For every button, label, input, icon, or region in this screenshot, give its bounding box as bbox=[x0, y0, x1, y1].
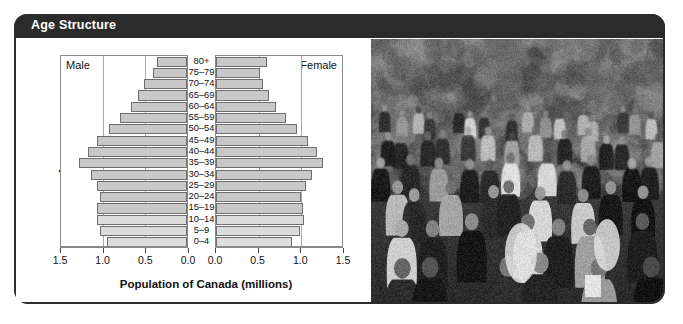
bar-male bbox=[131, 102, 187, 112]
x-axis-tick bbox=[300, 248, 301, 253]
bar-male bbox=[100, 226, 187, 236]
bar-female bbox=[216, 215, 304, 225]
x-axis-tick-label-female: 1.5 bbox=[328, 254, 358, 266]
photo-canvas bbox=[371, 39, 663, 302]
age-group-label: 55–59 bbox=[188, 112, 215, 121]
age-group-label: 25–29 bbox=[188, 180, 215, 189]
bar-male bbox=[157, 57, 187, 67]
bar-male bbox=[88, 147, 187, 157]
x-axis-tick bbox=[60, 248, 61, 253]
bar-male bbox=[100, 192, 187, 202]
bar-female bbox=[216, 90, 269, 100]
x-axis-line bbox=[60, 247, 188, 248]
x-axis-tick-label-female: 1.0 bbox=[285, 254, 315, 266]
bar-male bbox=[144, 79, 187, 89]
bar-female bbox=[216, 237, 292, 247]
figure-root: Age Structure Age Male Female 80+75–7970… bbox=[0, 0, 683, 324]
bar-male bbox=[97, 203, 187, 213]
age-group-label: 70–74 bbox=[188, 78, 215, 87]
bar-female bbox=[216, 192, 301, 202]
x-axis-tick bbox=[188, 248, 189, 253]
bar-male bbox=[97, 215, 187, 225]
x-axis-tick bbox=[343, 248, 344, 253]
bar-female bbox=[216, 57, 267, 67]
bar-male bbox=[97, 136, 187, 146]
legend-label-male: Male bbox=[66, 59, 90, 71]
age-group-label: 30–34 bbox=[188, 169, 215, 178]
x-axis-title: Population of Canada (millions) bbox=[46, 278, 366, 290]
age-group-label: 50–54 bbox=[188, 123, 215, 132]
x-axis-tick bbox=[103, 248, 104, 253]
bar-male bbox=[97, 181, 187, 191]
x-axis-tick bbox=[258, 248, 259, 253]
bar-female bbox=[216, 226, 300, 236]
age-group-label: 5–9 bbox=[188, 225, 215, 234]
male-plot-area: Male bbox=[60, 55, 188, 247]
bar-male bbox=[120, 113, 187, 123]
bar-female bbox=[216, 79, 263, 89]
age-group-label: 40–44 bbox=[188, 146, 215, 155]
age-group-label: 35–39 bbox=[188, 157, 215, 166]
age-group-label: 15–19 bbox=[188, 202, 215, 211]
bar-female bbox=[216, 113, 286, 123]
bar-female bbox=[216, 124, 297, 134]
bar-female bbox=[216, 102, 276, 112]
crowd-photograph bbox=[371, 39, 663, 302]
bar-male bbox=[153, 68, 187, 78]
age-group-label: 10–14 bbox=[188, 214, 215, 223]
age-group-label: 20–24 bbox=[188, 191, 215, 200]
page-title: Age Structure bbox=[31, 18, 116, 32]
bar-female bbox=[216, 136, 308, 146]
x-axis-tick-label-male: 1.5 bbox=[45, 254, 75, 266]
x-axis-tick-label-female: 0.5 bbox=[243, 254, 273, 266]
bar-male bbox=[109, 124, 188, 134]
panel-title-bar: Age Structure bbox=[14, 14, 665, 38]
bar-female bbox=[216, 170, 312, 180]
age-group-label: 75–79 bbox=[188, 67, 215, 76]
x-axis-tick bbox=[145, 248, 146, 253]
age-group-label: 60–64 bbox=[188, 101, 215, 110]
bar-female bbox=[216, 181, 306, 191]
bar-male bbox=[138, 90, 187, 100]
bar-female bbox=[216, 158, 323, 168]
legend-label-female: Female bbox=[300, 59, 337, 71]
bar-female bbox=[216, 147, 317, 157]
age-group-label: 0–4 bbox=[188, 236, 215, 245]
age-group-label: 65–69 bbox=[188, 90, 215, 99]
bar-male bbox=[91, 170, 187, 180]
x-axis-tick-label-male: 0.5 bbox=[130, 254, 160, 266]
age-group-label: 45–49 bbox=[188, 135, 215, 144]
population-pyramid-chart: Age Male Female 80+75–7970–7465–6960–645… bbox=[16, 39, 371, 302]
x-axis-tick bbox=[215, 248, 216, 253]
x-axis-tick-label-male: 1.0 bbox=[88, 254, 118, 266]
bar-male bbox=[79, 158, 187, 168]
bar-male bbox=[107, 237, 187, 247]
x-axis-tick-label-female: 0.0 bbox=[200, 254, 230, 266]
bar-female bbox=[216, 203, 303, 213]
x-axis-line bbox=[215, 247, 343, 248]
age-group-label: 80+ bbox=[188, 56, 215, 65]
female-plot-area: Female bbox=[215, 55, 343, 247]
bar-female bbox=[216, 68, 260, 78]
age-group-labels: 80+75–7970–7465–6960–6455–5950–5445–4940… bbox=[188, 55, 215, 247]
x-axis-tick-label-male: 0.0 bbox=[173, 254, 203, 266]
